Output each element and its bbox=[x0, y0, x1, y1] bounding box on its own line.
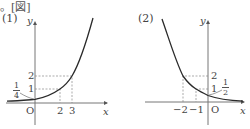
graph-2-origin: O bbox=[211, 105, 219, 115]
graph-2-ytick-1: 1 bbox=[211, 84, 217, 94]
graph-2-y-arrow-icon bbox=[206, 20, 210, 24]
graph-1-xtick-3: 3 bbox=[69, 106, 75, 116]
graph-1-x-label: x bbox=[103, 106, 109, 117]
graph-1-intercept-fraction: 1 4 bbox=[13, 81, 20, 100]
graph-1-origin: O bbox=[26, 106, 34, 116]
fraction-numerator: 1 bbox=[14, 81, 19, 90]
graph-1-y-arrow-icon bbox=[33, 21, 37, 25]
graph-2-x-label: x bbox=[240, 105, 246, 116]
graph-2-intercept-fraction: 1 2 bbox=[222, 78, 229, 97]
graph-2-xtick-neg1: −1 bbox=[189, 105, 204, 115]
graph-1-ytick-2: 2 bbox=[28, 71, 34, 81]
graph-2-xtick-neg2: −2 bbox=[173, 105, 188, 115]
fraction-denominator: 2 bbox=[223, 88, 228, 97]
graph-2-label: (2) bbox=[138, 12, 154, 25]
graph-2-guide-1 bbox=[196, 89, 208, 102]
graph-2-y-label: y bbox=[200, 15, 206, 26]
graph-1-y-label: y bbox=[27, 15, 33, 26]
graph-1-ytick-1: 1 bbox=[28, 84, 34, 94]
fraction-numerator: 1 bbox=[223, 78, 228, 87]
graph-2-ytick-2: 2 bbox=[211, 71, 217, 81]
fraction-denominator: 4 bbox=[14, 91, 19, 100]
graph-1-xtick-2: 2 bbox=[57, 106, 63, 116]
graph-1-label: (1) bbox=[2, 12, 18, 25]
graph-1-x-arrow-icon bbox=[104, 101, 108, 105]
graph-1-guide-2 bbox=[35, 76, 72, 103]
